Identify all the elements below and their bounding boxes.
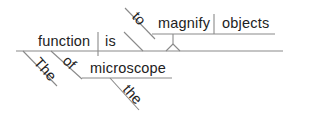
word-magnify: magnify — [158, 16, 210, 31]
pedestal-left-leg — [166, 44, 173, 51]
word-is: is — [105, 34, 116, 49]
pedestal-right-leg — [173, 44, 180, 51]
word-function: function — [38, 34, 90, 49]
complement-slant-line — [124, 32, 143, 51]
word-objects: objects — [222, 16, 269, 31]
word-microscope: microscope — [90, 61, 166, 76]
